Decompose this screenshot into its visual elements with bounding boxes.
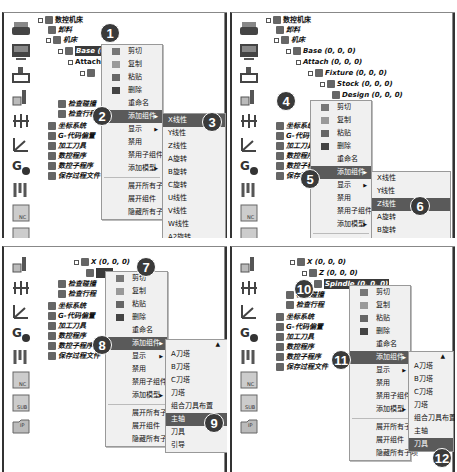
tree-node-probe2[interactable]: 检查行程 xyxy=(286,300,324,310)
menu-item-add-model[interactable]: 添加模型▶ xyxy=(311,218,371,231)
nc-program-icon[interactable]: NC xyxy=(238,203,260,223)
tree-node-nc[interactable]: 数控程序 xyxy=(48,151,86,161)
tree-node-root[interactable]: 数控机床 xyxy=(266,15,311,25)
g-code-icon[interactable]: G xyxy=(10,157,32,177)
tools-icon[interactable] xyxy=(238,180,260,200)
tree-node-x-axis[interactable]: X (0, 0, 0) xyxy=(290,257,346,267)
tree-node-tools[interactable]: 加工刀具 xyxy=(48,321,86,331)
tree-node-fixture[interactable]: Fixture (0, 0, 0) xyxy=(308,68,387,78)
tree-node-fixture[interactable] xyxy=(80,68,95,78)
nc-program-icon[interactable]: NC xyxy=(238,370,260,390)
submenu-item-w-linear[interactable]: W线性 xyxy=(163,218,225,231)
tree-node-bed[interactable]: 机床 xyxy=(274,35,305,45)
tools-icon[interactable] xyxy=(10,180,32,200)
menu-item-paste[interactable]: 粘贴 xyxy=(102,71,162,84)
tree-node-save[interactable]: 保存过程文件 xyxy=(48,351,100,361)
tree-node-nc[interactable]: 数控程序 xyxy=(276,342,314,352)
tree-node-nc[interactable]: 数控程序 xyxy=(276,151,314,161)
axis-dimension-icon[interactable] xyxy=(10,278,32,298)
menu-item-add-component[interactable]: 添加组件▶ xyxy=(311,166,371,179)
tree-node-holder[interactable]: 卸料 xyxy=(48,25,72,35)
tree-node-coord[interactable]: 坐标系统 xyxy=(276,312,314,322)
menu-item-display[interactable]: 显示▶ xyxy=(311,179,371,192)
submenu-item-b-turret[interactable]: B刀塔 xyxy=(166,361,227,374)
tree-node-bed[interactable]: 机床 xyxy=(46,35,77,45)
menu-item-delete[interactable]: 删除 xyxy=(311,140,371,153)
menu-item-expand-all[interactable]: 展开所有子项 xyxy=(350,421,410,434)
monitor-icon[interactable] xyxy=(10,42,32,62)
tree-node-subnc[interactable]: 数控子程序 xyxy=(48,341,93,351)
menu-item-add-component[interactable]: 添加组件▶ xyxy=(106,337,167,350)
menu-item-hide-all[interactable]: 隐藏所有子项 xyxy=(106,433,167,446)
submenu-item-turret[interactable]: 刀塔 xyxy=(409,399,453,412)
printer-icon[interactable] xyxy=(10,19,32,39)
g-code-icon[interactable]: G xyxy=(10,324,32,344)
menu-item-rename[interactable]: 重命名 xyxy=(102,97,162,110)
menu-item-disable-children[interactable]: 禁用子组件 xyxy=(102,149,162,162)
tree-node-coord[interactable]: 坐标系统 xyxy=(48,121,86,131)
tool-holder-icon[interactable] xyxy=(10,88,32,108)
nc-program-icon[interactable]: NC xyxy=(10,370,32,390)
tree-node-base[interactable]: Base (0, 0, 0) xyxy=(286,46,356,56)
scroll-up-icon[interactable]: ▲ xyxy=(166,340,227,348)
axis-dimension-icon[interactable] xyxy=(238,278,260,298)
menu-item-disable-children[interactable]: 禁用子组件 xyxy=(311,205,371,218)
submenu-item-z-linear[interactable]: Z线性 xyxy=(163,140,225,153)
tree-node-tools[interactable]: 加工刀具 xyxy=(276,141,314,151)
menu-item-delete[interactable]: 删除 xyxy=(350,325,410,338)
submenu-item-combined-tool[interactable]: 组合刀具布置 xyxy=(166,400,227,413)
submenu-item-a-turret[interactable]: A刀塔 xyxy=(166,348,227,361)
tree-node-save[interactable]: 保存过程文件 xyxy=(276,362,328,372)
menu-item-expand-all[interactable]: 展开所有子项 xyxy=(106,407,167,420)
menu-item-hide-all[interactable]: 隐藏所有子项 xyxy=(102,206,162,219)
tree-node-coord[interactable]: 坐标系统 xyxy=(276,121,314,131)
menu-item-cut[interactable]: 剪切 xyxy=(350,286,410,299)
axis-dimension-icon[interactable] xyxy=(10,111,32,131)
save-file-icon[interactable]: IP xyxy=(10,416,32,436)
menu-item-disable[interactable]: 禁用 xyxy=(311,192,371,205)
tree-node-nc[interactable]: 数控程序 xyxy=(48,331,86,341)
tools-icon[interactable] xyxy=(238,347,260,367)
submenu-item-b-rotary[interactable]: B旋转 xyxy=(372,224,450,237)
submenu-item-b-rotary[interactable]: B旋转 xyxy=(163,166,225,179)
menu-item-copy[interactable]: 复制 xyxy=(350,299,410,312)
menu-item-disable[interactable]: 禁用 xyxy=(350,377,410,390)
submenu-item-a-rotary[interactable]: A旋转 xyxy=(163,153,225,166)
coordinate-icon[interactable] xyxy=(10,134,32,154)
save-file-icon[interactable]: IP xyxy=(238,416,260,436)
menu-item-delete[interactable]: 删除 xyxy=(102,84,162,97)
submenu-item-y-linear[interactable]: Y线性 xyxy=(372,185,450,198)
submenu-item-c-rotary[interactable]: C旋转 xyxy=(163,179,225,192)
menu-item-paste[interactable]: 粘贴 xyxy=(311,127,371,140)
menu-item-copy[interactable]: 复制 xyxy=(102,58,162,71)
submenu-item-spindle[interactable]: 主轴 xyxy=(409,425,453,438)
menu-item-expand-component[interactable]: 展开组件 xyxy=(106,420,167,433)
tree-node-tools[interactable]: 加工刀具 xyxy=(276,332,314,342)
menu-item-copy[interactable]: 复制 xyxy=(311,114,371,127)
tree-node-root[interactable]: 数控机床 xyxy=(38,15,83,25)
menu-item-delete[interactable]: 删除 xyxy=(106,311,167,324)
machine-icon[interactable] xyxy=(238,65,260,85)
machine-icon[interactable] xyxy=(10,65,32,85)
menu-item-add-component[interactable]: 添加组件▶ xyxy=(350,351,410,364)
submenu-item-c-turret[interactable]: C刀塔 xyxy=(409,386,453,399)
menu-item-paste[interactable]: 粘贴 xyxy=(106,298,167,311)
menu-item-paste[interactable]: 粘贴 xyxy=(350,312,410,325)
tree-node-gcode[interactable]: G-代码偏置 xyxy=(48,131,95,141)
tree-node-gcode[interactable]: G-代码偏置 xyxy=(276,322,323,332)
tree-node-x-axis[interactable]: X (0, 0, 0) xyxy=(74,257,130,267)
menu-item-add-model[interactable]: 添加模型▶ xyxy=(102,162,162,175)
submenu-item-u-linear[interactable]: U线性 xyxy=(163,192,225,205)
submenu-item-combined-tool[interactable]: 组合刀具布置 xyxy=(409,412,453,425)
tree-node-save[interactable]: 保存过程文件 xyxy=(48,171,100,181)
menu-item-copy[interactable]: 复制 xyxy=(106,285,167,298)
submenu-item-a-turret[interactable]: A刀塔 xyxy=(409,360,453,373)
menu-item-disable[interactable]: 禁用 xyxy=(106,363,167,376)
submenu-item-a2-rotary[interactable]: A2旋转 xyxy=(163,231,225,238)
menu-item-display[interactable]: 显示▶ xyxy=(106,350,167,363)
menu-item-rename[interactable]: 重命名 xyxy=(106,324,167,337)
menu-item-cut[interactable]: 剪切 xyxy=(102,45,162,58)
menu-item-add-model[interactable]: 添加模型▶ xyxy=(350,403,410,416)
tree-node-coord[interactable]: 坐标系统 xyxy=(48,301,86,311)
submenu-item-v-linear[interactable]: V线性 xyxy=(163,205,225,218)
